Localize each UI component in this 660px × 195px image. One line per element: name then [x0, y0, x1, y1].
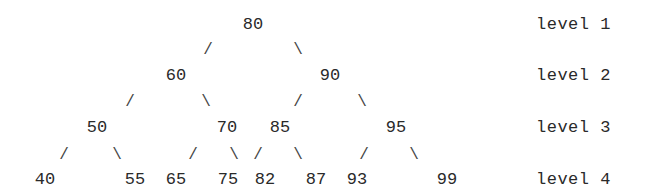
tree-node: 60	[166, 66, 186, 86]
tree-node: 80	[243, 15, 263, 35]
tree-node: 90	[320, 66, 340, 86]
left-edge: /	[59, 145, 69, 165]
level-label: level 2	[536, 66, 611, 86]
tree-node: 40	[35, 170, 55, 190]
tree-node: 82	[255, 170, 275, 190]
level-label: level 1	[536, 15, 611, 35]
right-edge: \	[293, 40, 303, 60]
left-edge: /	[203, 40, 213, 60]
level-label: level 4	[536, 170, 611, 190]
right-edge: \	[409, 145, 419, 165]
tree-node: 65	[166, 170, 186, 190]
tree-node: 70	[217, 118, 237, 138]
level-label: level 3	[536, 118, 611, 138]
tree-node: 75	[218, 170, 238, 190]
right-edge: \	[229, 145, 239, 165]
left-edge: /	[253, 145, 263, 165]
left-edge: /	[359, 145, 369, 165]
right-edge: \	[293, 145, 303, 165]
left-edge: /	[125, 92, 135, 112]
right-edge: \	[112, 145, 122, 165]
tree-node: 99	[437, 170, 457, 190]
tree-node: 95	[386, 118, 406, 138]
tree-node: 87	[306, 170, 326, 190]
tree-node: 93	[347, 170, 367, 190]
tree-node: 50	[87, 118, 107, 138]
tree-node: 55	[125, 170, 145, 190]
left-edge: /	[293, 92, 303, 112]
right-edge: \	[357, 92, 367, 112]
tree-node: 85	[270, 118, 290, 138]
right-edge: \	[201, 92, 211, 112]
left-edge: /	[188, 145, 198, 165]
